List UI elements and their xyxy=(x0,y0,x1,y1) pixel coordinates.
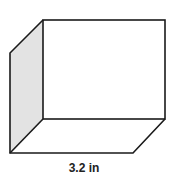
back-face xyxy=(43,20,165,119)
bottom-edge-label: 3.2 in xyxy=(69,161,100,175)
prism-diagram: 3.2 in xyxy=(0,0,176,180)
